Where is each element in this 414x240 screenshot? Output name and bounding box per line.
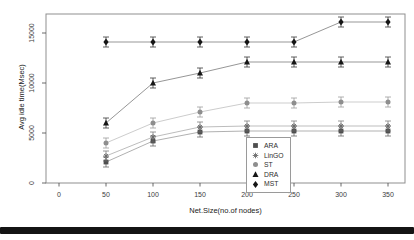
triangle-marker-icon (251, 170, 260, 179)
asterisk-marker-icon (251, 151, 260, 160)
legend-item-dra: DRA (251, 170, 284, 180)
x-tick-label: 350 (382, 191, 394, 198)
legend-label: ARA (264, 141, 278, 151)
series-MST (103, 17, 391, 47)
x-axis-label: Net.Size(no.of nodes) (46, 206, 405, 215)
legend: ARA LinGO ST DRA MST (246, 137, 291, 193)
figure: 050100150200250300350050001000015000 Avg… (0, 0, 414, 240)
circle-marker-icon (251, 160, 260, 169)
legend-label: ST (264, 160, 273, 170)
x-tick-label: 300 (335, 191, 347, 198)
bottom-bar (0, 227, 414, 234)
legend-label: LinGO (264, 151, 284, 161)
chart-plot: 050100150200250300350050001000015000 (0, 0, 414, 226)
x-axis-ticks: 050100150200250300350 (57, 183, 394, 198)
y-tick-label: 10000 (28, 73, 35, 93)
x-tick-label: 150 (194, 191, 206, 198)
chart-area: 050100150200250300350050001000015000 Avg… (0, 0, 414, 226)
y-tick-label: 15000 (28, 23, 35, 43)
x-tick-label: 50 (102, 191, 110, 198)
y-axis-ticks: 050001000015000 (28, 23, 46, 185)
legend-item-lingo: LinGO (251, 151, 284, 161)
x-tick-label: 0 (57, 191, 61, 198)
legend-item-mst: MST (251, 179, 284, 189)
y-tick-label: 0 (28, 181, 35, 185)
legend-item-ara: ARA (251, 141, 284, 151)
series-DRA (103, 57, 391, 128)
legend-item-st: ST (251, 160, 284, 170)
square-marker-icon (251, 141, 260, 150)
plot-frame (46, 14, 405, 183)
legend-label: DRA (264, 170, 278, 180)
y-axis-label: Avg idle time(Msec) (17, 64, 26, 130)
diamond-marker-icon (251, 180, 260, 189)
y-tick-label: 5000 (28, 125, 35, 141)
x-tick-label: 100 (147, 191, 159, 198)
legend-label: MST (264, 179, 278, 189)
